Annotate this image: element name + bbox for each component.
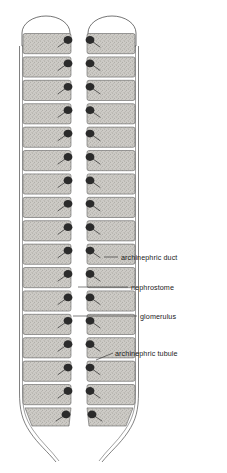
- archinephric-kidney-diagram: archinephric duct nephrostome glomerulus…: [0, 0, 227, 473]
- label-text-archinephric-tubule: archinephric tubule: [115, 349, 178, 358]
- label-text-archinephric-duct: archinephric duct: [121, 253, 177, 262]
- left-column: [20, 16, 73, 462]
- label-text-nephrostome: nephrostome: [131, 283, 174, 292]
- left-segment-stack: [23, 34, 72, 427]
- right-segment-stack: [86, 34, 135, 427]
- label-text-glomerulus: glomerulus: [140, 312, 176, 321]
- right-column: [86, 16, 139, 462]
